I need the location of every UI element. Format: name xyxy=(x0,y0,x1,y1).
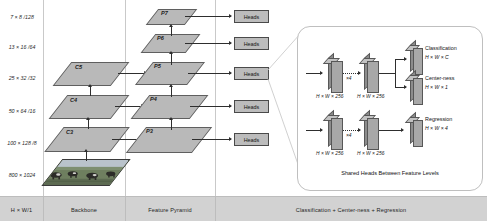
heads-box-p5[interactable]: Heads xyxy=(234,67,269,80)
pyramid-arrow-head-p6-p7 xyxy=(169,24,173,27)
head-arrow-p3 xyxy=(229,137,232,141)
legend-cell-backbone: Backbone xyxy=(43,197,125,221)
head-line-p3 xyxy=(192,139,231,140)
pyramid-arrow-line-p3-p4 xyxy=(171,120,172,130)
pyramid-plane-p7 xyxy=(146,9,198,25)
conv-slab-cls-2 xyxy=(364,58,374,88)
conv-slab-cls-1 xyxy=(328,58,338,88)
heads-box-p4[interactable]: Heads xyxy=(234,100,269,113)
heads-box-label: Heads xyxy=(244,71,260,77)
backbone-label-c5: C5 xyxy=(75,64,82,70)
pyramid-arrow-line-p6-p7 xyxy=(171,27,172,36)
figure-canvas: 7 × 8 /128 13 × 16 /64 25 × 32 /32 50 × … xyxy=(0,0,487,221)
backbone-arrow-head-c3-c4 xyxy=(86,117,90,120)
head-line-p4 xyxy=(190,106,231,107)
pyramid-label-p7: P7 xyxy=(161,10,168,16)
pyramid-arrow-head-p5-p6 xyxy=(169,51,173,54)
output-dim-regression: H × W × 4 xyxy=(425,125,448,131)
head-line-p7 xyxy=(185,16,231,17)
backbone-arrow-line-img-c3 xyxy=(86,152,87,161)
output-slab-centerness xyxy=(410,75,418,100)
detail-branch-arrow-ctr xyxy=(404,85,407,89)
output-label-centerness: Center-ness H × W × 1 xyxy=(425,74,454,92)
pyramid-label-p3: P3 xyxy=(146,128,153,134)
pyramid-label-p4: P4 xyxy=(150,96,157,102)
resolution-label-p5: 25 × 32 /32 xyxy=(0,75,44,81)
detail-dotted-arrow-bottom xyxy=(358,128,361,132)
resolution-label-p3: 100 × 128 /8 xyxy=(0,140,44,146)
head-line-p6 xyxy=(185,43,231,44)
dim-caption-cls-1: H × W × 256 xyxy=(316,94,343,99)
pyramid-label-p5: P5 xyxy=(154,63,161,69)
output-slab-regression xyxy=(410,117,418,142)
resolution-label-input: 800 × 1024 xyxy=(0,172,44,178)
backbone-label-c4: C4 xyxy=(70,97,77,103)
detail-in-arrow-top xyxy=(320,71,323,75)
output-name-centerness: Center-ness xyxy=(425,75,454,81)
heads-box-label: Heads xyxy=(244,104,260,110)
resolution-label-p6: 13 × 16 /64 xyxy=(0,44,44,50)
output-dim-classification: H × W × C xyxy=(425,54,449,60)
legend-bar: H × W/1 Backbone Feature Pyramid Classif… xyxy=(0,196,487,221)
backbone-arrow-head-c4-c5 xyxy=(88,84,92,87)
detail-branch-stem xyxy=(379,73,395,74)
legend-cell-input: H × W/1 xyxy=(0,197,43,221)
backbone-label-c3: C3 xyxy=(66,129,73,135)
head-line-p5 xyxy=(188,73,231,74)
output-label-regression: Regression H × W × 4 xyxy=(425,115,452,133)
column-divider-1 xyxy=(43,0,44,196)
output-slab-classification xyxy=(410,45,418,70)
dim-caption-reg-1: H × W × 256 xyxy=(316,151,343,156)
pyramid-label-p6: P6 xyxy=(157,35,164,41)
detail-in-arrow-bottom xyxy=(320,128,323,132)
detail-dotted-arrow-top xyxy=(358,71,361,75)
heads-box-label: Heads xyxy=(244,137,260,143)
head-arrow-p7 xyxy=(229,14,232,18)
detail-branch-bus xyxy=(395,59,396,87)
output-dim-centerness: H × W × 1 xyxy=(425,84,448,90)
detail-branch-arrow-cls xyxy=(404,57,407,61)
legend-cell-heads: Classification + Center-ness + Regressio… xyxy=(215,197,487,221)
resolution-label-p4: 50 × 64 /16 xyxy=(0,108,44,114)
detail-panel-caption: Shared Heads Between Feature Levels xyxy=(298,170,482,176)
detail-reg-out-arrow xyxy=(401,128,404,132)
repeat-annotation-bottom: ×4 xyxy=(346,133,352,138)
output-label-classification: Classification H × W × C xyxy=(425,44,457,62)
pyramid-arrow-line-p5-p6 xyxy=(171,54,172,65)
conv-slab-reg-2 xyxy=(364,115,374,145)
dim-caption-cls-2: H × W × 256 xyxy=(357,94,384,99)
pyramid-arrow-line-p4-p5 xyxy=(171,87,172,97)
detail-reg-out-line xyxy=(379,130,403,131)
output-name-regression: Regression xyxy=(425,116,452,122)
backbone-arrow-head-img-c3 xyxy=(84,149,88,152)
heads-box-p7[interactable]: Heads xyxy=(234,10,269,23)
backbone-plane-c4 xyxy=(49,95,130,119)
dim-caption-reg-2: H × W × 256 xyxy=(357,151,384,156)
input-image xyxy=(41,159,130,186)
head-arrow-p6 xyxy=(229,41,232,45)
backbone-arrow-line-c4-c5 xyxy=(90,87,91,96)
output-name-classification: Classification xyxy=(425,45,457,51)
pyramid-arrow-head-p3-p4 xyxy=(169,117,173,120)
pyramid-plane-p4 xyxy=(131,95,209,119)
pyramid-arrow-head-p4-p5 xyxy=(169,84,173,87)
lateral-line-c5-p5 xyxy=(118,73,146,74)
head-arrow-p5 xyxy=(229,71,232,75)
heads-box-label: Heads xyxy=(244,14,260,20)
input-image-graphic xyxy=(44,160,128,185)
backbone-plane-c5 xyxy=(53,62,130,86)
legend-cell-fpn: Feature Pyramid xyxy=(125,197,215,221)
pyramid-plane-p3 xyxy=(126,127,212,153)
resolution-label-p7: 7 × 8 /128 xyxy=(0,14,44,20)
heads-box-p6[interactable]: Heads xyxy=(234,37,269,50)
backbone-arrow-line-c3-c4 xyxy=(88,120,89,129)
conv-slab-reg-1 xyxy=(328,115,338,145)
heads-box-p3[interactable]: Heads xyxy=(234,133,269,146)
heads-box-label: Heads xyxy=(244,41,260,47)
column-divider-3 xyxy=(215,0,216,196)
repeat-annotation-top: ×4 xyxy=(346,76,352,81)
head-arrow-p4 xyxy=(229,104,232,108)
shared-heads-detail-panel: ×4 Classification H × W × C Center-ness … xyxy=(297,26,483,191)
